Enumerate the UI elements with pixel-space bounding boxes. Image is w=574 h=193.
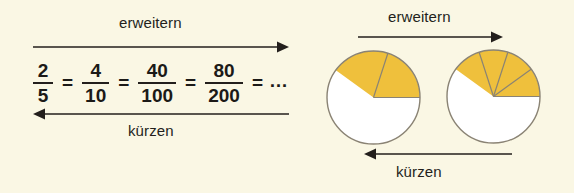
fraction-denominator: 200 [205, 84, 243, 105]
fraction-numerator: 2 [35, 61, 52, 82]
fraction-expansion-diagram: erweitern 2 5 = 4 10 = 40 100 = 80 200 =… [0, 0, 574, 193]
equals-sign: = [118, 72, 129, 95]
ellipsis: … [269, 70, 288, 96]
right-erweitern-arrow-right [358, 30, 503, 44]
equals-sign: = [62, 72, 73, 95]
pie-chart-two-fifths [326, 50, 421, 145]
equals-sign: = [252, 72, 263, 95]
pie-chart-four-tenths [446, 49, 541, 144]
left-kuerzen-label: kürzen [128, 122, 174, 139]
fraction-4-10: 4 10 [82, 61, 109, 105]
fraction-2-5: 2 5 [33, 61, 53, 105]
fraction-numerator: 4 [87, 61, 104, 82]
equivalent-fraction-chain: 2 5 = 4 10 = 40 100 = 80 200 = … [28, 57, 288, 109]
left-erweitern-arrow-right [33, 40, 289, 54]
left-erweitern-label: erweitern [119, 14, 182, 31]
fraction-denominator: 10 [82, 84, 109, 105]
fraction-numerator: 80 [210, 61, 237, 82]
right-kuerzen-arrow-left [364, 147, 512, 161]
left-kuerzen-arrow-left [33, 107, 289, 121]
equals-sign: = [185, 72, 196, 95]
fraction-denominator: 5 [35, 84, 52, 105]
right-erweitern-label: erweitern [388, 8, 451, 25]
right-kuerzen-label: kürzen [396, 163, 442, 180]
fraction-numerator: 40 [144, 61, 171, 82]
fraction-80-200: 80 200 [205, 61, 243, 105]
fraction-denominator: 100 [138, 84, 176, 105]
fraction-40-100: 40 100 [138, 61, 176, 105]
